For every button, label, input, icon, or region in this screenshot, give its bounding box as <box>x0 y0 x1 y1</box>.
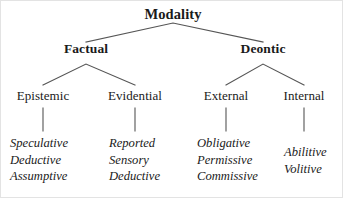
leaf-item: Commissive <box>197 168 258 185</box>
node-external: External <box>204 89 248 102</box>
node-internal: Internal <box>284 89 325 102</box>
node-epistemic: Epistemic <box>17 89 69 102</box>
edge-deontic-to-children <box>226 64 304 85</box>
node-modality: Modality <box>144 7 201 22</box>
edge-factual-to-children <box>43 64 135 85</box>
leaf-list-internal: Abilitive Volitive <box>284 144 327 177</box>
leaf-item: Reported <box>109 135 160 152</box>
leaf-item: Volitive <box>284 161 327 178</box>
leaf-item: Obligative <box>197 135 258 152</box>
leaf-item: Abilitive <box>284 144 327 161</box>
modality-tree-diagram: Modality Factual Deontic Epistemic Evide… <box>0 0 343 198</box>
leaf-item: Deductive <box>109 168 160 185</box>
leaf-item: Permissive <box>197 152 258 169</box>
leaf-item: Sensory <box>109 152 160 169</box>
node-factual: Factual <box>64 42 108 56</box>
leaf-item: Deductive <box>10 152 68 169</box>
leaf-list-evidential: Reported Sensory Deductive <box>109 135 160 185</box>
node-evidential: Evidential <box>108 89 162 102</box>
leaf-item: Assumptive <box>10 168 68 185</box>
leaf-list-external: Obligative Permissive Commissive <box>197 135 258 185</box>
node-deontic: Deontic <box>241 42 286 56</box>
edge-root-to-branches <box>86 23 263 42</box>
leaf-list-epistemic: Speculative Deductive Assumptive <box>10 135 68 185</box>
leaf-item: Speculative <box>10 135 68 152</box>
